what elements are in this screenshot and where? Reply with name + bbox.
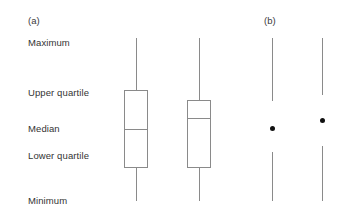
panel-label-a: (a) <box>28 15 40 26</box>
axis-label-median: Median <box>28 123 60 134</box>
panel-label-b: (b) <box>264 15 276 26</box>
boxplot-2-median-line <box>187 118 211 119</box>
boxplot-2-box <box>187 100 211 168</box>
interval-1-upper-segment <box>272 38 273 101</box>
interval-2-upper-segment <box>322 38 323 95</box>
interval-2-lower-segment <box>322 146 323 201</box>
boxplot-1-median-line <box>124 129 148 130</box>
boxplot-1-lower-whisker <box>136 168 137 201</box>
axis-label-lower-quartile: Lower quartile <box>28 150 89 161</box>
interval-1-point-marker <box>270 126 275 131</box>
boxplot-2-lower-whisker <box>199 168 200 201</box>
interval-2-point-marker <box>320 118 325 123</box>
boxplot-2-upper-whisker <box>199 38 200 100</box>
boxplot-figure: (a) (b) Maximum Upper quartile Median Lo… <box>0 0 347 217</box>
interval-1-lower-segment <box>272 152 273 201</box>
axis-label-minimum: Minimum <box>28 195 67 206</box>
axis-label-upper-quartile: Upper quartile <box>28 87 89 98</box>
axis-label-maximum: Maximum <box>28 37 70 48</box>
boxplot-1-upper-whisker <box>136 38 137 90</box>
